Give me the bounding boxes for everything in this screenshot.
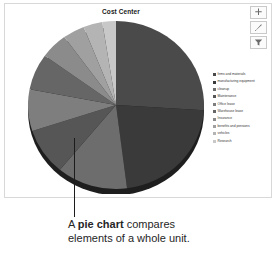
pie-slices <box>28 21 204 189</box>
caption-line-1: A pie chart compares <box>68 218 175 230</box>
legend-label: Maintenance <box>218 95 237 98</box>
chart-panel: Cost Center <box>4 3 272 198</box>
legend-label: Warehouse lease <box>218 110 244 113</box>
legend-label: Office lease <box>218 103 235 106</box>
legend-item[interactable]: Warehouse lease <box>213 108 275 115</box>
edit-button[interactable] <box>250 21 267 34</box>
legend-item[interactable]: Research <box>213 138 275 145</box>
caption-rest: compares <box>124 218 175 230</box>
pie-chart <box>27 16 205 194</box>
pie-chart-svg <box>27 16 205 194</box>
chart-legend: firms and materialsmanufacturing equipme… <box>213 71 275 145</box>
caption-line-2: elements of a whole unit. <box>68 232 190 244</box>
legend-item[interactable]: benefits and pensions <box>213 123 275 130</box>
filter-button[interactable] <box>250 36 267 49</box>
pie-slice[interactable] <box>116 21 204 110</box>
legend-item[interactable]: cleanup <box>213 86 275 93</box>
legend-swatch <box>213 103 216 106</box>
callout-leader-line <box>74 138 75 217</box>
legend-swatch <box>213 140 216 143</box>
caption-lead: A <box>68 218 78 230</box>
legend-label: Research <box>218 140 232 143</box>
chart-toolbar <box>250 6 268 49</box>
page-title: Cost Center <box>5 8 237 15</box>
legend-swatch <box>213 73 216 76</box>
legend-label: cleanup <box>218 88 230 91</box>
pencil-icon <box>254 23 263 32</box>
legend-swatch <box>213 132 216 135</box>
legend-item[interactable]: Maintenance <box>213 93 275 100</box>
legend-swatch <box>213 81 216 84</box>
pie-slice[interactable] <box>116 105 204 188</box>
legend-item[interactable]: Office lease <box>213 101 275 108</box>
funnel-icon <box>254 38 263 47</box>
legend-label: benefits and pensions <box>218 125 250 128</box>
legend-item[interactable]: Insurance <box>213 115 275 122</box>
legend-swatch <box>213 125 216 128</box>
legend-item[interactable]: manufacturing equipment <box>213 78 275 85</box>
plus-icon <box>254 8 263 17</box>
legend-swatch <box>213 110 216 113</box>
legend-label: firms and materials <box>218 73 246 76</box>
legend-label: Insurance <box>218 117 232 120</box>
add-button[interactable] <box>250 6 267 19</box>
legend-swatch <box>213 88 216 91</box>
caption-emphasis: pie chart <box>78 218 124 230</box>
legend-swatch <box>213 118 216 121</box>
legend-label: manufacturing equipment <box>218 80 255 83</box>
legend-item[interactable]: firms and materials <box>213 71 275 78</box>
caption-text: A pie chart compares elements of a whole… <box>68 218 268 245</box>
legend-swatch <box>213 95 216 98</box>
legend-label: vehicles <box>218 132 230 135</box>
legend-item[interactable]: vehicles <box>213 130 275 137</box>
